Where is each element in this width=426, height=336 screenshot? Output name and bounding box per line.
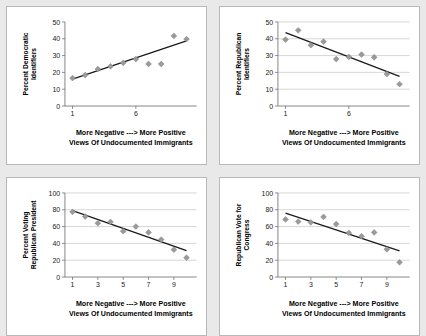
scatter-plot-percent-democratic-identifiers: 0102030405016Percent DemocraticIdentifie… — [7, 7, 206, 164]
data-point-marker — [95, 220, 101, 226]
y-tick-label: 50 — [265, 19, 273, 26]
x-tick-label: 5 — [121, 281, 125, 288]
y-tick-label: 50 — [52, 19, 60, 26]
data-point-marker — [184, 255, 190, 261]
x-tick-label: 1 — [284, 110, 288, 117]
y-axis-title-line1: Percent Democratic — [22, 32, 29, 95]
data-point-marker — [371, 230, 377, 236]
data-point-marker — [158, 61, 164, 67]
y-tick-label: 40 — [52, 35, 60, 42]
x-tick-label: 5 — [334, 281, 338, 288]
scatter-plot-percent-voting-republican-president: 02040608010013579Percent VotingRepublica… — [7, 178, 206, 335]
y-tick-label: 60 — [265, 223, 273, 230]
y-tick-label: 40 — [265, 240, 273, 247]
y-axis-title-line2: Republican President — [30, 200, 38, 269]
y-tick-label: 100 — [49, 190, 61, 197]
y-tick-label: 40 — [52, 240, 60, 247]
data-point-marker — [70, 75, 76, 81]
data-point-marker — [283, 216, 289, 222]
data-point-marker — [146, 61, 152, 67]
y-tick-label: 40 — [265, 35, 273, 42]
y-tick-label: 60 — [52, 223, 60, 230]
data-point-marker — [108, 63, 114, 69]
x-tick-label: 1 — [284, 281, 288, 288]
trend-line — [73, 41, 187, 79]
y-tick-label: 10 — [52, 86, 60, 93]
data-point-marker — [359, 52, 365, 58]
data-point-marker — [295, 27, 301, 33]
y-tick-label: 20 — [265, 257, 273, 264]
x-tick-label: 7 — [147, 281, 151, 288]
x-axis-caption-line1: More Negative ---> More Positive — [289, 300, 399, 308]
x-axis-caption-line2: Views Of Undocumented Immigrants — [282, 310, 406, 318]
trend-line — [286, 213, 400, 251]
chart-panel-top-right: 0102030405016Percent RepublicanIdentifie… — [219, 6, 420, 165]
x-tick-label: 6 — [134, 110, 138, 117]
chart-panel-bottom-right: 02040608010013579Republican Vote forCong… — [219, 177, 420, 336]
y-tick-label: 30 — [265, 52, 273, 59]
x-axis-caption-line2: Views Of Undocumented Immigrants — [282, 139, 406, 147]
x-tick-label: 1 — [71, 110, 75, 117]
data-point-marker — [283, 37, 289, 43]
data-point-marker — [321, 39, 327, 45]
trend-line — [73, 211, 187, 251]
data-point-marker — [146, 230, 152, 236]
y-tick-label: 20 — [265, 69, 273, 76]
x-axis-caption-line2: Views Of Undocumented Immigrants — [69, 310, 193, 318]
y-tick-label: 80 — [265, 206, 273, 213]
y-axis-title-line2: Congress — [243, 219, 251, 250]
y-tick-label: 0 — [56, 274, 60, 281]
scatter-plot-republican-vote-for-congress: 02040608010013579Republican Vote forCong… — [220, 178, 419, 335]
y-axis-title-line1: Republican Vote for — [235, 203, 243, 266]
data-point-marker — [82, 72, 88, 78]
data-point-marker — [321, 214, 327, 220]
y-tick-label: 20 — [52, 69, 60, 76]
x-tick-label: 1 — [71, 281, 75, 288]
y-tick-label: 0 — [56, 103, 60, 110]
chart-panel-bottom-left: 02040608010013579Percent VotingRepublica… — [6, 177, 207, 336]
y-tick-label: 100 — [262, 190, 274, 197]
data-point-marker — [133, 224, 139, 230]
y-axis-title-line2: Identifiers — [243, 48, 250, 80]
data-point-marker — [333, 221, 339, 227]
scatter-plot-percent-republican-identifiers: 0102030405016Percent RepublicanIdentifie… — [220, 7, 419, 164]
data-point-marker — [346, 54, 352, 60]
y-axis-title-line1: Percent Republican — [235, 33, 243, 96]
figure-grid: 0102030405016Percent DemocraticIdentifie… — [0, 0, 426, 336]
y-axis-title-line1: Percent Voting — [22, 211, 30, 258]
data-point-marker — [333, 56, 339, 62]
data-point-marker — [397, 81, 403, 87]
x-tick-label: 3 — [96, 281, 100, 288]
data-point-marker — [295, 219, 301, 225]
x-tick-label: 3 — [309, 281, 313, 288]
x-axis-caption-line1: More Negative ---> More Positive — [289, 129, 399, 137]
chart-panel-top-left: 0102030405016Percent DemocraticIdentifie… — [6, 6, 207, 165]
y-tick-label: 0 — [269, 103, 273, 110]
y-tick-label: 30 — [52, 52, 60, 59]
x-axis-caption-line1: More Negative ---> More Positive — [76, 129, 186, 137]
y-tick-label: 10 — [265, 86, 273, 93]
x-axis-caption-line2: Views Of Undocumented Immigrants — [69, 139, 193, 147]
y-tick-label: 20 — [52, 257, 60, 264]
y-axis-title-line2: Identifiers — [30, 48, 37, 80]
x-tick-label: 7 — [360, 281, 364, 288]
x-tick-label: 6 — [347, 110, 351, 117]
trend-line — [286, 33, 400, 77]
x-axis-caption-line1: More Negative ---> More Positive — [76, 300, 186, 308]
data-point-marker — [171, 33, 177, 39]
y-tick-label: 80 — [52, 206, 60, 213]
data-point-marker — [171, 247, 177, 253]
y-tick-label: 0 — [269, 274, 273, 281]
x-tick-label: 9 — [172, 281, 176, 288]
x-tick-label: 9 — [385, 281, 389, 288]
